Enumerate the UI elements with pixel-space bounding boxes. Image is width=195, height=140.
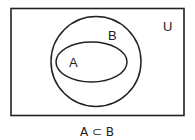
set-b-label: B (108, 28, 117, 43)
venn-diagram: U B A A ⊂ B (0, 0, 195, 140)
caption: A ⊂ B (80, 125, 114, 139)
set-a-label: A (69, 55, 78, 70)
universe-rectangle (11, 9, 184, 116)
universe-label: U (163, 19, 172, 34)
